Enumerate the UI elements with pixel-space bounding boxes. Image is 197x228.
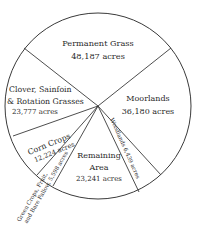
label-clover-line1: Clover, Sainfoin xyxy=(9,85,72,94)
label-green-crops-line2: and Bare Fallow, 5,598 acres xyxy=(23,150,69,224)
pie-chart: Permanent Grass 48,187 acres Moorlands 3… xyxy=(0,0,197,228)
label-remaining-line2: Area xyxy=(88,163,108,172)
value-permanent-grass: 48,187 acres xyxy=(71,51,125,61)
label-remaining-line1: Remaining xyxy=(77,151,121,160)
label-permanent-grass: Permanent Grass xyxy=(62,38,134,48)
label-moorlands: Moorlands xyxy=(126,94,169,103)
label-clover-line2: & Rotation Grasses xyxy=(7,97,84,106)
value-remaining: 23,241 acres xyxy=(76,175,122,183)
corn-crops-label-group: Corn Crops 12,224 acres xyxy=(26,131,76,165)
value-clover: 23,777 acres xyxy=(12,108,58,116)
value-moorlands: 36,180 acres xyxy=(122,107,174,116)
